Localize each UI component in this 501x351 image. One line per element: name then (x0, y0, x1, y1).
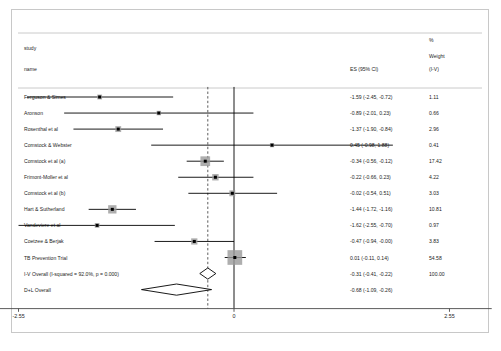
effect-size-label: -0.47 (-0.94, -0.00) (350, 238, 393, 244)
point-estimate-marker (231, 192, 234, 195)
point-estimate-marker (111, 208, 114, 211)
study-name-label: Comstock & Webster (24, 142, 72, 148)
forest-plot-canvas: studynameES (95% CI)%Weight(I-V)Ferguson… (12, 10, 488, 332)
weight-label: 54.58 (429, 255, 442, 261)
weight-label: 17.42 (429, 158, 442, 164)
point-estimate-marker (117, 128, 120, 131)
study-name-label: Coetzee & Berjak (24, 238, 64, 244)
study-name-label: Comstock et al (b) (24, 190, 66, 196)
effect-size-label: -0.31 (-0.41, -0.22) (350, 271, 393, 277)
header-weight-method: (I-V) (429, 66, 439, 72)
header-weight: Weight (429, 53, 445, 59)
weight-label: 3.03 (429, 190, 439, 196)
x-axis-tick-label: 0 (233, 313, 236, 319)
forest-row: Hart & Sutherland-1.44 (-1.72, -1.16)10.… (24, 205, 442, 213)
forest-row: D+L Overall-0.68 (-1.09, -0.26) (24, 284, 393, 295)
study-name-label: TB Prevention Trial (24, 255, 67, 261)
summary-diamond (141, 284, 211, 295)
study-name-label: I-V Overall (I-squared = 92.0%, p = 0.00… (24, 271, 119, 277)
point-estimate-marker (96, 224, 99, 227)
effect-size-label: -1.37 (-1.90, -0.84) (350, 126, 393, 132)
point-estimate-marker (98, 96, 101, 99)
study-name-label: D+L Overall (24, 287, 51, 293)
summary-diamond (200, 268, 216, 279)
weight-label: 4.22 (429, 174, 439, 180)
weight-label: 100.00 (429, 271, 445, 277)
forest-row: Aronson-0.89 (-2.01, 0.23)0.66 (24, 110, 439, 116)
forest-row: Frimont-Moller et al-0.22 (-0.66, 0.23)4… (24, 174, 439, 180)
study-name-label: Hart & Sutherland (24, 206, 65, 212)
effect-size-label: 0.01 (-0.11, 0.14) (350, 255, 389, 261)
weight-label: 0.97 (429, 222, 439, 228)
header-percent: % (429, 37, 434, 43)
forest-row: Comstock & Webster0.45 (-0.98, 1.88)0.41 (24, 142, 439, 148)
header-name: name (24, 66, 37, 72)
point-estimate-marker (271, 144, 274, 147)
weight-label: 10.81 (429, 206, 442, 212)
effect-size-label: -0.89 (-2.01, 0.23) (350, 110, 391, 116)
effect-size-label: -1.62 (-2.55, -0.70) (350, 222, 393, 228)
header-study: study (24, 45, 37, 51)
point-estimate-marker (204, 160, 207, 163)
header-es: ES (95% CI) (350, 66, 379, 72)
study-name-label: Comstock et al (a) (24, 158, 66, 164)
forest-row: TB Prevention Trial0.01 (-0.11, 0.14)54.… (24, 250, 442, 265)
effect-size-label: -0.22 (-0.66, 0.23) (350, 174, 391, 180)
study-name-label: Frimont-Moller et al (24, 174, 68, 180)
weight-label: 3.83 (429, 238, 439, 244)
point-estimate-marker (193, 240, 196, 243)
weight-label: 0.41 (429, 142, 439, 148)
effect-size-label: -0.02 (-0.54, 0.51) (350, 190, 391, 196)
effect-size-label: -0.34 (-0.56, -0.12) (350, 158, 393, 164)
x-axis-tick-label: 2.55 (444, 313, 455, 319)
x-axis-tick-label: -2.55 (12, 313, 24, 319)
forest-plot-frame: studynameES (95% CI)%Weight(I-V)Ferguson… (11, 9, 489, 333)
study-name-label: Rosenthal et al (24, 126, 58, 132)
weight-label: 1.11 (429, 94, 439, 100)
effect-size-label: -1.59 (-2.45, -0.72) (350, 94, 393, 100)
point-estimate-marker (157, 112, 160, 115)
forest-row: Rosenthal et al-1.37 (-1.90, -0.84)2.96 (24, 126, 439, 132)
forest-row: Comstock et al (a)-0.34 (-0.56, -0.12)17… (24, 156, 442, 166)
effect-size-label: -0.68 (-1.09, -0.26) (350, 287, 393, 293)
weight-label: 0.66 (429, 110, 439, 116)
point-estimate-marker (214, 176, 217, 179)
forest-row: Vandeviere et al-1.62 (-2.55, -0.70)0.97 (19, 222, 440, 228)
forest-row: Ferguson & Simes-1.59 (-2.45, -0.72)1.11 (24, 94, 439, 100)
forest-row: Comstock et al (b)-0.02 (-0.54, 0.51)3.0… (24, 190, 439, 196)
point-estimate-marker (233, 256, 236, 259)
weight-label: 2.96 (429, 126, 439, 132)
forest-row: Coetzee & Berjak-0.47 (-0.94, -0.00)3.83 (24, 238, 439, 244)
effect-size-label: -1.44 (-1.72, -1.16) (350, 206, 393, 212)
study-name-label: Aronson (24, 110, 43, 116)
